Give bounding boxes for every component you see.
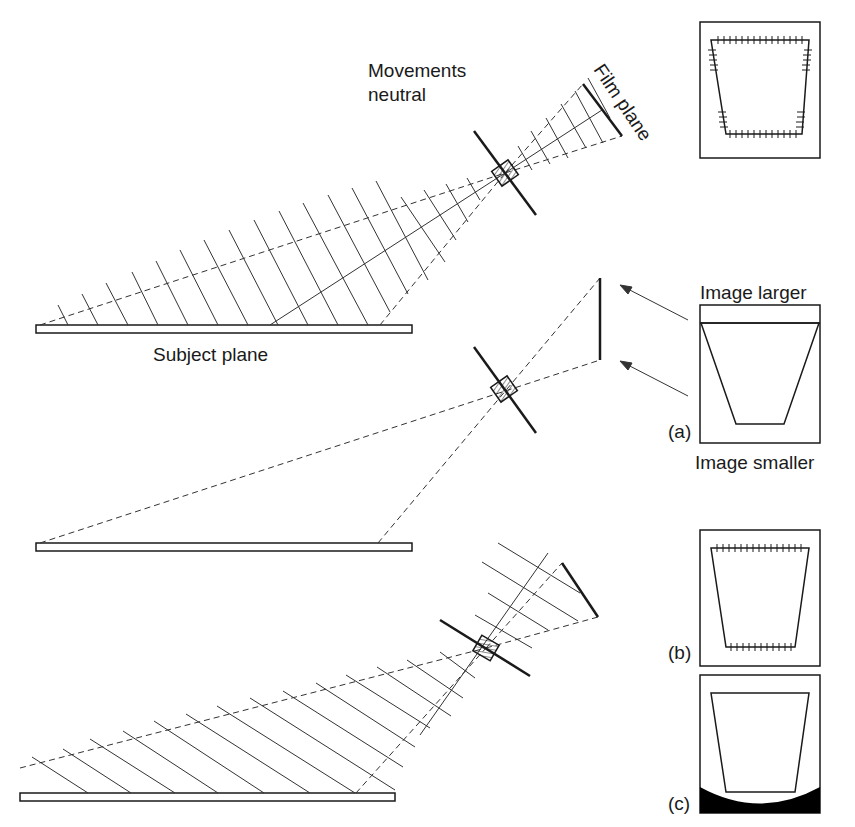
movements-label-line2: neutral: [368, 84, 426, 106]
top-section: [36, 78, 622, 333]
middle-lens: [491, 376, 518, 402]
top-lens: [492, 160, 519, 186]
bottom-section: [20, 543, 598, 801]
movements-label-line1: Movements: [368, 60, 466, 82]
bottom-film-plane: [562, 563, 598, 617]
panel-b-label: (b): [668, 642, 691, 664]
top-ray-center: [270, 173, 505, 325]
panel-a-label: (a): [668, 421, 691, 443]
middle-subject-plane: [36, 543, 412, 551]
diagram-canvas: [0, 0, 855, 827]
bottom-subject-plane: [20, 793, 395, 801]
image-smaller-label: Image smaller: [695, 452, 814, 474]
subject-plane-label: Subject plane: [153, 344, 268, 366]
top-ray-upper: [40, 173, 505, 325]
top-ray-lower: [380, 173, 505, 325]
inset-b: [700, 530, 820, 666]
bottom-hatch-lines: [32, 543, 580, 793]
bottom-lens: [473, 635, 499, 661]
top-subject-plane: [36, 325, 412, 333]
image-larger-label: Image larger: [700, 282, 807, 304]
inset-a: [700, 305, 820, 443]
panel-c-label: (c): [668, 793, 690, 815]
top-inset: [700, 22, 820, 158]
middle-section: [36, 278, 688, 551]
inset-c: [700, 675, 820, 813]
pointer-arrows: [620, 285, 688, 396]
